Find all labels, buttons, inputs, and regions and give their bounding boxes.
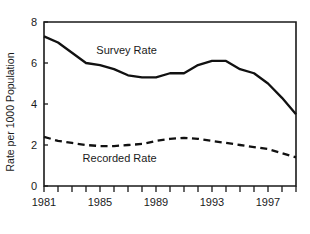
x-tick-label: 1981 — [32, 196, 56, 208]
x-tick-marks — [44, 186, 296, 192]
x-tick-label: 1989 — [144, 196, 168, 208]
y-tick-label: 2 — [31, 139, 37, 151]
y-tick-label: 0 — [31, 180, 37, 192]
x-tick-label: 1985 — [88, 196, 112, 208]
y-tick-label: 6 — [31, 57, 37, 69]
series-label-survey-rate: Survey Rate — [96, 44, 157, 56]
series-label-recorded-rate: Recorded Rate — [83, 152, 157, 164]
y-tick-label: 8 — [31, 16, 37, 28]
x-tick-label: 1993 — [200, 196, 224, 208]
y-tick-labels: 8 6 4 2 0 — [31, 16, 37, 192]
x-tick-label: 1997 — [256, 196, 280, 208]
line-chart: Rate per 1000 Population 8 6 4 2 0 — [0, 0, 310, 234]
x-tick-labels: 1981 1985 1989 1993 1997 — [32, 196, 280, 208]
y-axis-title: Rate per 1000 Population — [4, 52, 16, 171]
series-line-survey-rate — [44, 36, 296, 114]
y-tick-label: 4 — [31, 98, 37, 110]
chart-container: Rate per 1000 Population 8 6 4 2 0 — [0, 0, 310, 234]
